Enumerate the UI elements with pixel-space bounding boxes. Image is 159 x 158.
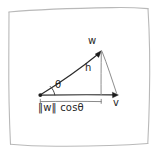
label-height-h: h xyxy=(85,63,91,73)
label-projection-length: ‖w‖ cosθ xyxy=(38,103,84,113)
vector-w-arrow xyxy=(41,51,102,95)
vector-v-arrow xyxy=(41,92,119,98)
vector-projection-diagram: w v h θ ‖w‖ cosθ xyxy=(0,0,159,158)
label-vector-v: v xyxy=(113,98,119,108)
triangle-closing-side xyxy=(102,52,117,94)
label-angle-theta: θ xyxy=(55,80,61,90)
diagram-canvas xyxy=(0,0,159,158)
sketch-frame xyxy=(9,8,150,147)
origin-point xyxy=(38,93,42,97)
label-vector-w: w xyxy=(88,36,96,46)
